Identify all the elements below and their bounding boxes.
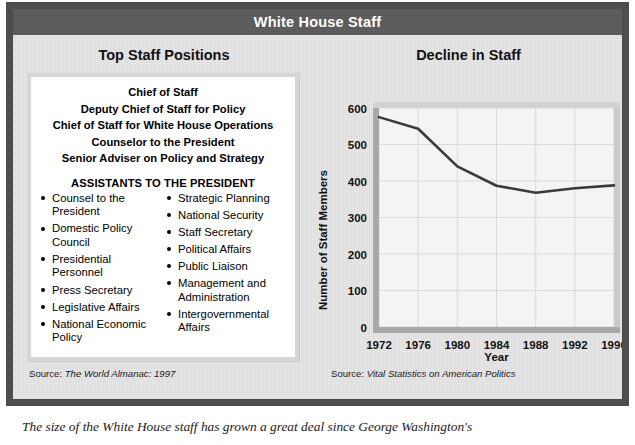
x-tick-label: 1996 [601, 339, 622, 351]
list-item: Intergovernmental Affairs [165, 308, 291, 335]
list-item: Strategic Planning [165, 192, 291, 206]
bullet-icon [41, 227, 45, 231]
list-item: Management and Administration [165, 277, 291, 304]
top-position-item: Deputy Chief of Staff for Policy [37, 101, 289, 118]
list-item-label: Domestic Policy Council [52, 222, 132, 248]
bullet-icon [167, 213, 171, 217]
chart-gridlines [379, 108, 614, 327]
assistants-column-left: Counsel to the President Domestic Policy… [39, 192, 165, 349]
x-tick-label: 1980 [445, 339, 471, 351]
top-position-item: Counselor to the President [37, 134, 289, 151]
list-item: National Security [165, 209, 291, 223]
assistants-heading: ASSISTANTS TO THE PRESIDENT [31, 177, 295, 189]
top-position-item: Senior Adviser on Policy and Strategy [37, 150, 289, 167]
top-positions-list: Chief of Staff Deputy Chief of Staff for… [37, 84, 289, 167]
list-item: Presidential Personnel [39, 253, 165, 280]
figure-frame: White House Staff Top Staff Positions Ch… [6, 2, 629, 406]
left-source-note: Source: The World Almanac: 1997 [29, 368, 175, 379]
figure-banner: White House Staff [13, 9, 622, 35]
bullet-icon [41, 322, 45, 326]
list-item: National Economic Policy [39, 318, 165, 345]
chart-y-tick-labels: 0100200300400500600 [348, 103, 367, 334]
list-item-label: National Security [178, 209, 263, 221]
list-item-label: Management and Administration [178, 277, 266, 303]
x-tick-label: 1992 [562, 339, 588, 351]
top-position-item: Chief of Staff [37, 84, 289, 101]
bullet-icon [167, 264, 171, 268]
right-source-note: Source: Vital Statistics on American Pol… [331, 368, 516, 379]
bullet-icon [41, 196, 45, 200]
source-label: Source: [29, 368, 62, 379]
list-item: Staff Secretary [165, 226, 291, 240]
chart-x-axis-label: Year [484, 351, 509, 363]
left-panel-heading: Top Staff Positions [13, 47, 315, 63]
list-item: Legislative Affairs [39, 301, 165, 315]
source-title: Vital Statistics on American Politics [367, 368, 516, 379]
list-item-label: Public Liaison [178, 260, 248, 272]
x-tick-label: 1976 [405, 339, 431, 351]
list-item-label: Presidential Personnel [52, 253, 111, 279]
list-item: Public Liaison [165, 260, 291, 274]
figure-background: White House Staff Top Staff Positions Ch… [13, 9, 622, 399]
list-item: Press Secretary [39, 284, 165, 298]
y-tick-label: 200 [348, 249, 367, 261]
y-tick-label: 600 [348, 103, 367, 115]
page-title: White House Staff [254, 14, 381, 30]
top-staff-positions-box: Chief of Staff Deputy Chief of Staff for… [27, 73, 299, 361]
list-item-label: Press Secretary [52, 284, 132, 296]
bullet-icon [167, 312, 171, 316]
y-tick-label: 400 [348, 176, 367, 188]
right-panel-heading: Decline in Staff [315, 47, 622, 63]
top-position-item: Chief of Staff for White House Operation… [37, 117, 289, 134]
y-tick-label: 500 [348, 139, 367, 151]
bullet-icon [167, 281, 171, 285]
chart-x-tick-labels: 1972197619801984198819921996 [366, 339, 622, 351]
right-panel: Decline in Staff 0100200300400500600 197… [315, 35, 622, 399]
list-item-label: National Economic Policy [52, 318, 146, 344]
x-tick-label: 1988 [523, 339, 549, 351]
list-item-label: Strategic Planning [178, 192, 270, 204]
bullet-icon [167, 196, 171, 200]
list-item: Political Affairs [165, 243, 291, 257]
source-title: The World Almanac: 1997 [65, 368, 176, 379]
list-item-label: Staff Secretary [178, 226, 253, 238]
source-label: Source: [331, 368, 364, 379]
chart-y-axis-label: Number of Staff Members [317, 170, 329, 310]
bullet-icon [41, 305, 45, 309]
assistants-columns: Counsel to the President Domestic Policy… [39, 192, 291, 349]
left-panel: Top Staff Positions Chief of Staff Deput… [13, 35, 315, 399]
bullet-icon [41, 257, 45, 261]
y-tick-label: 300 [348, 212, 367, 224]
list-item: Counsel to the President [39, 192, 165, 219]
list-item: Domestic Policy Council [39, 222, 165, 249]
bullet-icon [167, 247, 171, 251]
figure-caption: The size of the White House staff has gr… [22, 419, 612, 435]
decline-in-staff-chart: 0100200300400500600 19721976198019841988… [315, 65, 622, 365]
list-item-label: Legislative Affairs [52, 301, 140, 313]
chart-svg: 0100200300400500600 19721976198019841988… [315, 65, 622, 365]
x-tick-label: 1972 [366, 339, 392, 351]
bullet-icon [167, 230, 171, 234]
list-item-label: Counsel to the President [52, 192, 125, 218]
y-tick-label: 0 [361, 322, 367, 334]
x-tick-label: 1984 [484, 339, 510, 351]
panels-container: Top Staff Positions Chief of Staff Deput… [13, 35, 622, 399]
bullet-icon [41, 288, 45, 292]
assistants-column-right: Strategic Planning National Security Sta… [165, 192, 291, 349]
list-item-label: Political Affairs [178, 243, 251, 255]
y-tick-label: 100 [348, 285, 367, 297]
list-item-label: Intergovernmental Affairs [178, 308, 269, 334]
